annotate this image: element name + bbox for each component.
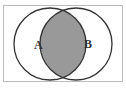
venn-diagram: A B xyxy=(0,0,126,88)
label-a: A xyxy=(34,38,43,52)
label-b: B xyxy=(84,37,92,51)
